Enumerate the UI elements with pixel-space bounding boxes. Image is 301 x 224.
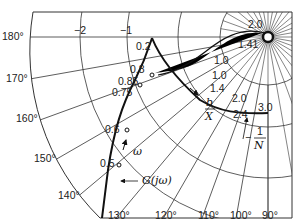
polar-chart-svg: 180° 170° 160° 150° 140° 130° 120° 110° … [0, 0, 301, 224]
magnitude-label-neg2: −2 [74, 24, 86, 36]
point-0.75 [138, 83, 142, 87]
g-label-0.5: 0.5 [100, 157, 115, 169]
minus-sign: − [245, 131, 251, 143]
origin-marker [263, 32, 273, 42]
g-label-0.85: 0.85 [118, 75, 139, 87]
angle-120: 120° [155, 209, 177, 221]
omega-arrow [123, 140, 126, 150]
describing-function-diagram: 180° 170° 160° 150° 140° 130° 120° 110° … [0, 0, 301, 224]
omega-label: ω [133, 145, 142, 158]
point-0.5 [117, 163, 121, 167]
n-label-2.0: 2.0 [232, 92, 247, 104]
g-label-0.2: 0.2 [136, 40, 151, 52]
magnitude-label-neg1: −1 [120, 24, 132, 36]
n-label-1.4: 1.4 [210, 82, 225, 94]
n-label-1.0-upper: 1.0 [214, 54, 229, 66]
g-label-0.6: 0.6 [105, 123, 120, 135]
n-label-2.0-top: 2.0 [248, 18, 263, 30]
angle-labels: 180° 170° 160° 150° 140° 130° 120° 110° … [2, 30, 278, 221]
n-label-1.41: 1.41 [238, 38, 259, 50]
angle-140: 140° [58, 189, 80, 201]
n-label-3.0: 3.0 [258, 101, 273, 113]
point-0.6 [125, 128, 129, 132]
g-label-0.75: 0.75 [112, 86, 133, 98]
one-label: 1 [257, 125, 263, 137]
x-label: X [204, 110, 214, 123]
angle-90: 90° [262, 209, 278, 221]
angle-110: 110° [198, 209, 219, 221]
g-label-0.8: 0.8 [130, 63, 145, 75]
angle-150: 150° [34, 152, 56, 164]
b-label: b [206, 96, 213, 109]
angle-130: 130° [108, 209, 130, 221]
n-label: N [253, 139, 264, 152]
n-label-2.4: 2.4 [233, 108, 248, 120]
g-curve-label: G(jω) [142, 174, 172, 187]
angle-170: 170° [6, 72, 28, 84]
angle-180: 180° [2, 30, 24, 42]
angle-160: 160° [16, 112, 38, 124]
angle-100: 100° [230, 209, 252, 221]
n-label-1.0: 1.0 [212, 69, 227, 81]
intersection-point [150, 73, 154, 77]
